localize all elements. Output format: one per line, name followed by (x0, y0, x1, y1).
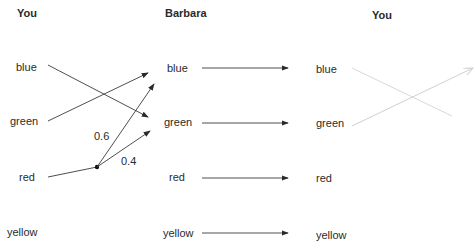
column-header-you-right: You (372, 9, 392, 21)
right-item-yellow: yellow (316, 229, 347, 241)
probability-label-0-6: 0.6 (94, 130, 109, 142)
barbara-item-yellow: yellow (163, 227, 194, 239)
column-header-you-left: You (17, 7, 37, 19)
left-item-yellow: yellow (7, 226, 38, 238)
barbara-item-green: green (164, 116, 192, 128)
column-header-barbara: Barbara (165, 7, 207, 19)
left-item-green: green (10, 115, 38, 127)
diagram-canvas (0, 0, 475, 251)
left-item-red: red (19, 171, 35, 183)
faint-line-blue (352, 68, 452, 116)
probability-label-0-4: 0.4 (121, 155, 136, 167)
left-item-blue: blue (16, 61, 37, 73)
line-red-to-node (48, 167, 97, 177)
barbara-item-blue: blue (167, 62, 188, 74)
right-item-red: red (316, 172, 332, 184)
right-item-green: green (316, 117, 344, 129)
arrow-blue-to-green (48, 65, 148, 117)
barbara-item-red: red (169, 171, 185, 183)
right-item-blue: blue (316, 63, 337, 75)
